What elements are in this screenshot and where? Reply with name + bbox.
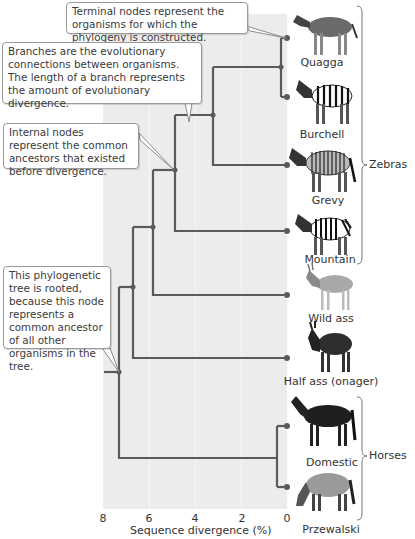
domestic-horse-image	[291, 396, 355, 446]
zebra-grevy-image	[289, 148, 355, 192]
przewalski-horse-image	[296, 473, 354, 511]
wild-ass-image	[306, 263, 353, 310]
taxon-label-onager: Half ass (onager)	[284, 375, 378, 388]
taxon-label-burchell: Burchell	[300, 128, 345, 141]
axis-tick-8: 8	[100, 512, 107, 525]
zebra-mountain-image	[295, 214, 351, 255]
callout-rooted-tree: This phylogenetic tree is rooted, becaus…	[3, 266, 111, 349]
zebra-burchell-image	[296, 80, 352, 124]
group-label-zebras: Zebras	[369, 158, 407, 171]
onager-image	[308, 321, 352, 372]
taxon-label-mountain: Mountain	[304, 253, 355, 266]
zebra-quagga-image	[293, 15, 357, 55]
taxon-label-przewalski: Przewalski	[302, 523, 359, 536]
callout-branches: Branches are the evolutionary connection…	[2, 42, 202, 104]
callout-terminal-nodes: Terminal nodes represent the organisms f…	[66, 2, 248, 34]
callout-internal-nodes: Internal nodes represent the common ance…	[3, 123, 139, 169]
axis-title: Sequence divergence (%)	[130, 524, 271, 537]
taxon-label-quagga: Quagga	[300, 56, 343, 69]
group-label-horses: Horses	[369, 449, 407, 462]
taxon-label-domestic: Domestic	[306, 456, 358, 469]
axis-tick-0: 0	[284, 512, 291, 525]
taxon-label-grevy: Grevy	[312, 194, 345, 207]
phylogenetic-tree-figure: Terminal nodes represent the organisms f…	[0, 0, 415, 539]
taxon-label-wild-ass: Wild ass	[308, 312, 353, 325]
